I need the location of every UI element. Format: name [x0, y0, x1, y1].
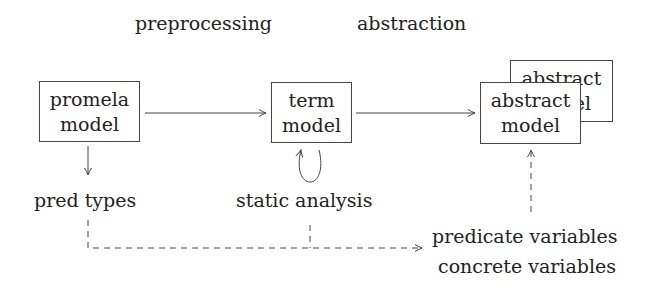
node-term-line1: term — [289, 88, 335, 113]
node-promela-model: promela model — [39, 81, 140, 142]
label-predicate-variables: predicate variables — [432, 225, 617, 247]
node-abstract-front-line1: abstract — [491, 88, 571, 113]
label-pred-types: pred types — [34, 189, 136, 211]
node-promela-line2: model — [60, 112, 119, 137]
stage-label-abstraction: abstraction — [357, 12, 466, 34]
stage-label-preprocessing: preprocessing — [135, 12, 272, 34]
label-static-analysis: static analysis — [236, 189, 372, 211]
node-term-line2: model — [282, 113, 341, 138]
node-abstract-front-line2: model — [501, 113, 560, 138]
edge-dashed-pred-types — [88, 220, 422, 248]
edge-static-analysis-loop — [299, 150, 321, 182]
label-concrete-variables: concrete variables — [438, 255, 616, 277]
node-promela-line1: promela — [50, 87, 129, 112]
node-abstract-model-front: abstract model — [480, 82, 581, 144]
node-term-model: term model — [271, 82, 352, 143]
